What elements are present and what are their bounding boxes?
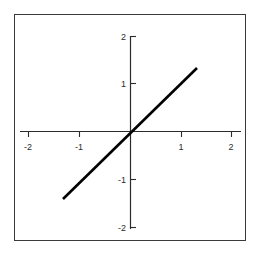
x-tick-labels: -2 -1 1 2 xyxy=(24,142,234,152)
chart-screenshot: -2 -1 1 2 2 1 -1 -2 xyxy=(0,0,264,259)
y-tick-label-2: 2 xyxy=(121,32,126,42)
y-tick-labels: 2 1 -1 -2 xyxy=(118,32,126,233)
y-tick-label--2: -2 xyxy=(118,223,126,233)
x-tick-label--1: -1 xyxy=(75,142,83,152)
x-tick-label-2: 2 xyxy=(228,142,233,152)
y-tick-label-1: 1 xyxy=(121,79,126,89)
plot-canvas: -2 -1 1 2 2 1 -1 -2 xyxy=(0,0,264,259)
x-tick-label-1: 1 xyxy=(178,142,183,152)
y-tick-label--1: -1 xyxy=(118,175,126,185)
x-tick-label--2: -2 xyxy=(24,142,32,152)
